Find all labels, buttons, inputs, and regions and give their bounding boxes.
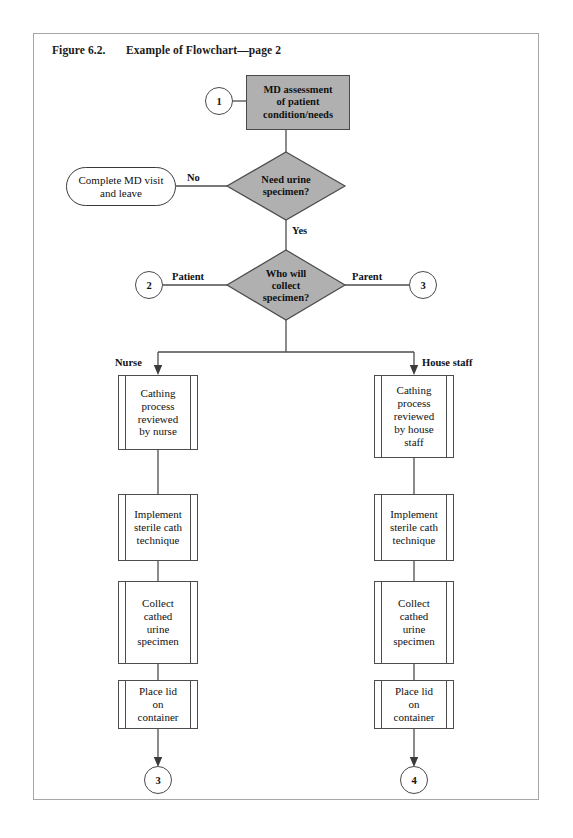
predef-bar-right <box>446 376 447 457</box>
md-assessment-line-1: MD assessment <box>263 84 333 96</box>
right-step3-line-4: specimen <box>393 635 435 648</box>
left-step4-line-2: on <box>138 698 179 711</box>
predef-bar-left <box>381 582 382 663</box>
md-assessment-line-2: of patient <box>263 96 333 108</box>
left-step3-line-1: Collect <box>137 597 179 610</box>
predef-bar-left <box>381 495 382 560</box>
predefined-process-left-sterile-cath[interactable]: Implement sterile cath technique <box>118 494 198 561</box>
predef-bar-left <box>381 681 382 728</box>
predefined-process-right-cathing-review[interactable]: Cathing process reviewed by house staff <box>374 375 454 458</box>
predefined-process-left-place-lid[interactable]: Place lid on container <box>118 680 198 729</box>
complete-visit-line-2: and leave <box>79 187 164 200</box>
predefined-process-right-collect-specimen[interactable]: Collect cathed urine specimen <box>374 581 454 664</box>
edge-label-yes: Yes <box>292 225 307 236</box>
right-step2-line-2: sterile cath <box>390 521 438 534</box>
predef-bar-right <box>190 495 191 560</box>
edge-label-no: No <box>187 172 200 183</box>
predefined-process-right-sterile-cath[interactable]: Implement sterile cath technique <box>374 494 454 561</box>
right-step3-line-2: cathed <box>393 610 435 623</box>
predef-bar-left <box>125 681 126 728</box>
edge-label-house-staff: House staff <box>422 357 472 368</box>
decision-who-collects-shape <box>227 250 345 320</box>
right-step1-line-2: process <box>394 397 434 410</box>
right-step4-line-3: container <box>394 711 435 724</box>
md-assessment-line-3: condition/needs <box>263 109 333 121</box>
connector-circle-3-right[interactable]: 3 <box>409 271 437 299</box>
connector-circle-left-out[interactable]: 3 <box>144 766 172 794</box>
left-step4-line-1: Place lid <box>138 685 179 698</box>
predefined-process-left-cathing-review[interactable]: Cathing process reviewed by nurse <box>118 375 198 450</box>
connector-circle-1[interactable]: 1 <box>205 87 233 115</box>
process-md-assessment[interactable]: MD assessment of patient condition/needs <box>246 75 350 130</box>
connector-circle-2[interactable]: 2 <box>135 271 163 299</box>
right-step1-line-5: staff <box>394 436 434 449</box>
complete-visit-line-1: Complete MD visit <box>79 174 164 187</box>
predef-bar-right <box>190 681 191 728</box>
predefined-process-left-collect-specimen[interactable]: Collect cathed urine specimen <box>118 581 198 664</box>
left-step2-line-3: technique <box>134 534 182 547</box>
edge-label-patient: Patient <box>172 271 204 282</box>
left-step4-line-3: container <box>138 711 179 724</box>
right-step2-line-3: technique <box>390 534 438 547</box>
predef-bar-right <box>190 582 191 663</box>
figure-page: Figure 6.2.Example of Flowchart—page 2 <box>0 0 573 838</box>
left-step3-line-4: specimen <box>137 635 179 648</box>
right-step4-line-2: on <box>394 698 435 711</box>
right-step1-line-4: by house <box>394 423 434 436</box>
left-step1-line-3: reviewed <box>138 413 178 426</box>
right-step3-line-1: Collect <box>393 597 435 610</box>
left-step1-line-2: process <box>138 400 178 413</box>
predef-bar-left <box>125 582 126 663</box>
predef-bar-left <box>125 495 126 560</box>
edge-label-nurse: Nurse <box>115 357 142 368</box>
decision-need-urine-shape <box>227 152 345 220</box>
right-step2-line-1: Implement <box>390 508 438 521</box>
right-step3-line-3: urine <box>393 623 435 636</box>
connector-circle-right-out[interactable]: 4 <box>400 766 428 794</box>
predef-bar-right <box>446 582 447 663</box>
predef-bar-right <box>190 376 191 449</box>
right-step4-line-1: Place lid <box>394 685 435 698</box>
predef-bar-left <box>381 376 382 457</box>
right-step1-line-1: Cathing <box>394 384 434 397</box>
predef-bar-right <box>446 681 447 728</box>
left-step2-line-1: Implement <box>134 508 182 521</box>
terminator-complete-md-visit[interactable]: Complete MD visit and leave <box>66 167 176 206</box>
left-step3-line-3: urine <box>137 623 179 636</box>
predefined-process-right-place-lid[interactable]: Place lid on container <box>374 680 454 729</box>
edge-label-parent: Parent <box>352 271 382 282</box>
left-step3-line-2: cathed <box>137 610 179 623</box>
predef-bar-right <box>446 495 447 560</box>
left-step1-line-4: by nurse <box>138 425 178 438</box>
left-step1-line-1: Cathing <box>138 387 178 400</box>
predef-bar-left <box>125 376 126 449</box>
left-step2-line-2: sterile cath <box>134 521 182 534</box>
right-step1-line-3: reviewed <box>394 410 434 423</box>
